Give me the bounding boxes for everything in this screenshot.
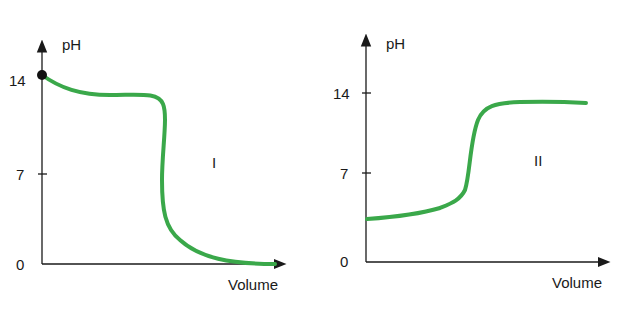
chart-2-tick-7-label: 7 xyxy=(340,165,348,182)
chart-1-roman-label: I xyxy=(212,154,216,171)
chart-2-xlabel: Volume xyxy=(552,274,602,291)
chart-2-tick-0-label: 0 xyxy=(340,253,348,270)
chart-2-ylabel: pH xyxy=(386,35,405,52)
chart-1-curve xyxy=(42,75,275,264)
chart-1: pH 14 7 0 Volume I xyxy=(9,36,280,293)
chart-2-curve xyxy=(367,102,586,219)
chart-1-start-point xyxy=(37,70,47,80)
titration-charts: pH 14 7 0 Volume I pH 14 7 0 Volume II xyxy=(0,0,622,322)
chart-2-tick-14-label: 14 xyxy=(333,85,350,102)
chart-1-tick-14-label: 14 xyxy=(9,72,26,89)
chart-2-roman-label: II xyxy=(534,152,542,169)
chart-1-xlabel: Volume xyxy=(228,276,278,293)
chart-1-ylabel: pH xyxy=(62,36,81,53)
chart-1-tick-7-label: 7 xyxy=(16,166,24,183)
chart-2: pH 14 7 0 Volume II xyxy=(333,35,604,291)
chart-1-tick-0-label: 0 xyxy=(16,256,24,273)
